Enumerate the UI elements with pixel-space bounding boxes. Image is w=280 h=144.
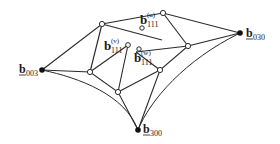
svg-text:b: b bbox=[143, 122, 150, 136]
svg-text:(v): (v) bbox=[111, 37, 120, 45]
control-point bbox=[157, 67, 162, 72]
svg-text:(w): (w) bbox=[141, 49, 151, 57]
label-b111u: b (u) 111 bbox=[140, 11, 158, 29]
svg-text:003: 003 bbox=[26, 69, 38, 78]
label-b111w: b (w) 111 bbox=[134, 49, 152, 67]
control-point bbox=[99, 21, 104, 26]
net-line bbox=[163, 13, 188, 46]
edge-b003-to-b300 bbox=[42, 70, 138, 130]
bezier-control-net-diagram: b 003 b 030 b 300 b (u) 111 b (v) 111 b … bbox=[0, 0, 280, 144]
svg-text:111: 111 bbox=[111, 46, 122, 55]
corner-points bbox=[39, 30, 243, 133]
control-point bbox=[160, 10, 165, 15]
control-point bbox=[115, 89, 120, 94]
svg-text:300: 300 bbox=[150, 129, 162, 138]
label-b300: b 300 bbox=[143, 122, 162, 138]
curve-b003-b300 bbox=[42, 70, 138, 130]
control-point bbox=[87, 69, 92, 74]
svg-text:b: b bbox=[19, 62, 26, 76]
control-net-edges bbox=[42, 13, 240, 130]
svg-text:(u): (u) bbox=[147, 11, 156, 19]
svg-text:111: 111 bbox=[141, 58, 152, 67]
corner-point-b003 bbox=[39, 67, 45, 73]
corner-point-b300 bbox=[135, 127, 141, 133]
label-b003: b 003 bbox=[19, 62, 38, 78]
control-point bbox=[185, 43, 190, 48]
svg-text:b: b bbox=[246, 26, 253, 40]
control-point-b111v bbox=[126, 43, 131, 48]
label-b111v: b (v) 111 bbox=[104, 37, 122, 55]
corner-point-b030 bbox=[237, 30, 243, 36]
svg-text:111: 111 bbox=[147, 20, 158, 29]
label-b030: b 030 bbox=[246, 26, 265, 42]
svg-text:030: 030 bbox=[253, 33, 265, 42]
